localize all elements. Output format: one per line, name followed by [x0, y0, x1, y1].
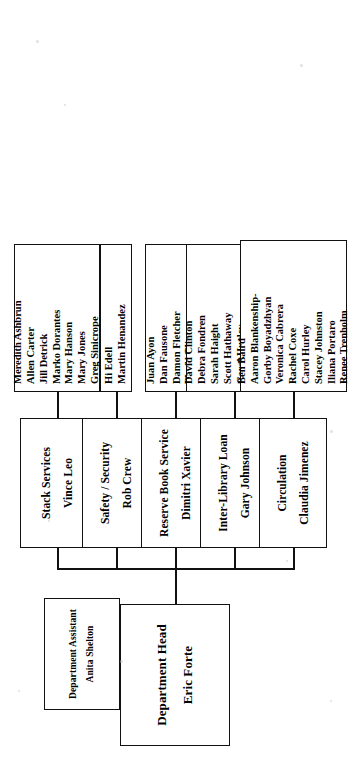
scan-speck [18, 690, 20, 692]
node-unit-reserve-book-service[interactable]: Reserve Book Service Dimitri Xavier [141, 418, 209, 548]
staff-name: Carol Hurley [300, 248, 313, 384]
staff-name: Mary Jones [76, 252, 89, 384]
node-person: Claudia Jimenez [297, 441, 311, 525]
staff-name: Renee Trenholm [338, 248, 351, 384]
staff-name: Gorby Boyadzhyan [262, 248, 275, 384]
connector-stacks-to-staff [57, 392, 59, 418]
staff-list-safety-security[interactable]: Hi Edell Martin Henandez [100, 244, 132, 392]
node-department-head[interactable]: Department Head Eric Forte [120, 604, 230, 746]
scan-speck [64, 104, 66, 106]
connector-reserve-to-staff [175, 392, 177, 418]
node-person: Dimitri Xavier [179, 446, 193, 520]
staff-name: Jill Detrick [38, 252, 51, 384]
node-title: Reserve Book Service [157, 429, 171, 537]
node-person: Eric Forte [180, 646, 196, 704]
connector-spine-to-reserve [175, 548, 177, 570]
staff-name: Marko Dorantes [51, 252, 64, 384]
chart-rotator: Department Head Eric Forte Department As… [0, 0, 351, 766]
staff-name: Veronica Cabrera [274, 248, 287, 384]
scan-speck [286, 560, 288, 562]
node-title: Safety / Security [98, 442, 112, 524]
staff-list-circulation[interactable]: Ben Baird Aaron Blankenship- Gorby Boyad… [240, 240, 347, 392]
staff-name: Hi Edell [103, 252, 116, 384]
staff-name: Mary Hanson [63, 252, 76, 384]
node-person: Vince Leo [61, 458, 75, 508]
scan-speck [120, 660, 123, 663]
staff-name: Ben Baird [236, 248, 249, 384]
staff-name: Stacey Johnston [313, 248, 326, 384]
staff-list-stack-services[interactable]: Meredith Ashbrun Allen Carter Jill Detri… [14, 244, 100, 392]
connector-spine-to-safety [116, 548, 118, 570]
connector-spine-to-ill [234, 548, 236, 570]
scan-speck [20, 330, 22, 332]
staff-name: Juan Ayon [145, 252, 158, 384]
staff-name: Martin Henandez [116, 252, 129, 384]
staff-name: Dan Fausone [158, 252, 171, 384]
node-unit-inter-library-loan[interactable]: Inter-Library Loan Gary Johnson [200, 418, 268, 548]
staff-name: Allen Carter [25, 252, 38, 384]
node-unit-safety-security[interactable]: Safety / Security Rob Crew [82, 418, 150, 548]
node-unit-circulation[interactable]: Circulation Claudia Jimenez [259, 418, 327, 548]
node-person: Anita Shelton [85, 626, 97, 683]
staff-name: David Clinton [183, 252, 196, 384]
connector-spine-to-circulation [293, 548, 295, 570]
connector-safety-to-staff [116, 392, 118, 418]
scan-speck [48, 520, 50, 522]
node-title: Inter-Library Loan [216, 434, 230, 532]
node-person: Gary Johnson [238, 448, 252, 519]
staff-name: Debra Fondren [196, 252, 209, 384]
connector-circulation-to-staff [293, 392, 295, 418]
scan-speck [36, 40, 39, 43]
staff-name: Sarah Haight [209, 252, 222, 384]
connector-spine-to-stacks [57, 548, 59, 570]
scan-speck [300, 64, 303, 67]
node-title: Department Assistant [68, 609, 80, 699]
staff-name: Rachel Coxe [287, 248, 300, 384]
node-title: Circulation [275, 454, 289, 511]
staff-name: Meredith Ashbrun [12, 252, 25, 384]
org-chart: Department Head Eric Forte Department As… [0, 0, 351, 766]
scan-speck [330, 700, 332, 702]
node-title: Stack Services [39, 447, 53, 519]
connector-root-to-spine [175, 570, 177, 604]
node-title: Department Head [154, 624, 170, 726]
staff-name: Damon Fletcher [171, 252, 184, 384]
scan-speck [330, 430, 333, 433]
connector-ill-to-staff [234, 392, 236, 418]
node-department-assistant[interactable]: Department Assistant Anita Shelton [44, 598, 120, 710]
staff-name: Scott Hathaway [222, 252, 235, 384]
node-person: Rob Crew [120, 458, 134, 509]
staff-name: Iliana Portaro [326, 248, 339, 384]
staff-name: Aaron Blankenship- [249, 248, 262, 384]
